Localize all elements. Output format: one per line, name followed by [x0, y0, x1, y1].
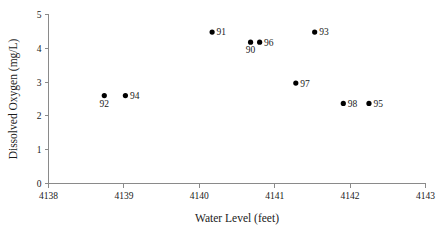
- data-point-label: 90: [246, 45, 256, 55]
- scatter-chart-figure: 012345413841394140414141424143 929491909…: [0, 0, 443, 233]
- x-axis-tick-label: 4141: [265, 191, 284, 201]
- x-axis-tick-label: 4142: [341, 191, 360, 201]
- data-point-marker: [248, 40, 253, 45]
- x-axis-tick-label: 4143: [416, 191, 435, 201]
- data-point-label: 95: [373, 99, 383, 109]
- data-point-marker: [366, 101, 371, 106]
- y-axis-tick-label: 5: [37, 10, 42, 20]
- data-point-label: 91: [217, 27, 227, 37]
- y-axis-tick-label: 3: [37, 78, 42, 88]
- x-axis-tick-label: 4138: [39, 191, 58, 201]
- data-point-marker: [210, 29, 215, 34]
- data-point-label: 98: [348, 99, 358, 109]
- plot-area: 012345413841394140414141424143 929491909…: [0, 0, 443, 233]
- x-axis-title: Water Level (feet): [195, 212, 279, 225]
- y-axis-tick-label: 4: [37, 44, 42, 54]
- data-point-marker: [341, 101, 346, 106]
- y-axis-title: Dissolved Oxygen (mg/L): [7, 38, 20, 159]
- data-point-marker: [257, 40, 262, 45]
- x-axis-tick-label: 4140: [190, 191, 209, 201]
- data-point-label: 94: [130, 91, 140, 101]
- data-point-label: 92: [100, 99, 110, 109]
- data-point-marker: [102, 93, 107, 98]
- y-axis-tick-label: 2: [37, 111, 42, 121]
- data-point-marker: [293, 81, 298, 86]
- data-point-marker: [312, 29, 317, 34]
- data-point-label: 97: [300, 79, 310, 89]
- y-axis-tick-label: 1: [37, 145, 42, 155]
- data-point-label: 96: [264, 38, 274, 48]
- y-axis-tick-label: 0: [37, 179, 42, 189]
- x-axis-tick-label: 4139: [114, 191, 133, 201]
- data-point-marker: [123, 93, 128, 98]
- data-point-label: 93: [319, 27, 329, 37]
- data-points: 929491909693979895: [100, 27, 384, 108]
